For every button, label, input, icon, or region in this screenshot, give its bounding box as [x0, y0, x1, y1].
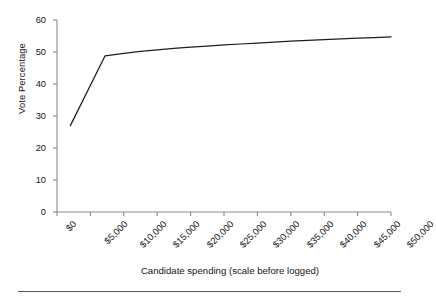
y-axis-ticks [53, 20, 57, 212]
y-axis-tick-label: 0 [20, 207, 46, 217]
data-series-line [70, 37, 391, 126]
y-axis-tick-label: 50 [20, 47, 46, 57]
x-axis-title-text: Candidate spending (scale before logged) [97, 265, 319, 276]
y-axis-tick-label: 30 [20, 111, 46, 121]
x-axis-title: Candidate spending (scale before logged) [0, 265, 416, 276]
y-axis-tick-label: 40 [20, 79, 46, 89]
y-axis-tick-label: 10 [20, 175, 46, 185]
x-axis-ticks [57, 212, 391, 216]
y-axis-tick-label: 60 [20, 15, 46, 25]
y-axis-tick-label: 20 [20, 143, 46, 153]
footer-separator-rule [18, 291, 401, 292]
